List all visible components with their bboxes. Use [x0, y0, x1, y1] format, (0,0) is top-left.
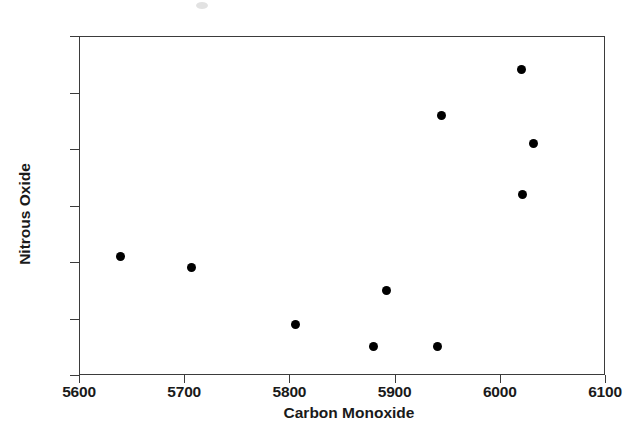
x-axis-tick-label: 5600 [39, 384, 119, 400]
scan-artifact [196, 2, 208, 9]
data-point [291, 320, 300, 329]
plot-data-area [79, 36, 605, 375]
x-axis-tick-label: 5800 [249, 384, 329, 400]
data-point [187, 263, 196, 272]
x-axis-tick [79, 375, 80, 383]
y-axis-tick [70, 149, 79, 150]
x-axis-tick-label: 6000 [460, 384, 540, 400]
data-point [382, 286, 391, 295]
x-axis-tick [500, 375, 501, 383]
y-axis-title: Nitrous Oxide [16, 114, 34, 314]
x-axis-tick-label: 5700 [144, 384, 224, 400]
data-point [437, 111, 446, 120]
data-point [517, 65, 526, 74]
y-axis-tick [70, 319, 79, 320]
x-axis-tick [605, 375, 606, 383]
data-point [369, 342, 378, 351]
y-axis-tick [70, 36, 79, 37]
data-point [518, 190, 527, 199]
x-axis-title: Carbon Monoxide [0, 404, 632, 422]
y-axis-tick [70, 375, 79, 376]
x-axis-tick-label: 5900 [355, 384, 435, 400]
y-axis-tick [70, 262, 79, 263]
data-point [116, 252, 125, 261]
scatter-plot-chart: 330340350360370380390 560057005800590060… [0, 0, 632, 429]
y-axis-tick [70, 206, 79, 207]
x-axis-tick [184, 375, 185, 383]
x-axis-tick [395, 375, 396, 383]
x-axis-tick [289, 375, 290, 383]
data-point [433, 342, 442, 351]
x-axis-tick-label: 6100 [565, 384, 632, 400]
y-axis-tick [70, 93, 79, 94]
data-point [529, 139, 538, 148]
